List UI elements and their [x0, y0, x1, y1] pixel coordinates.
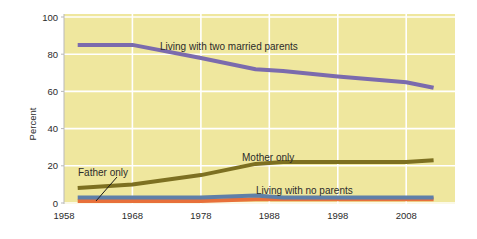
annotation-father-only: Father only — [78, 167, 128, 178]
x-tick-label-1968: 1968 — [122, 210, 143, 221]
x-tick-label-1978: 1978 — [190, 210, 211, 221]
y-tick-label-20: 20 — [47, 160, 58, 171]
annotation-mother-only: Mother only — [242, 152, 294, 163]
x-tick-label-1998: 1998 — [327, 210, 348, 221]
y-axis-title: Percent — [27, 107, 38, 140]
annotation-no-parents: Living with no parents — [256, 185, 353, 196]
annotation-two-married-parents: Living with two married parents — [160, 41, 298, 52]
x-tick-label-1988: 1988 — [259, 210, 280, 221]
y-tick-label-60: 60 — [47, 86, 58, 97]
x-tick-label-2008: 2008 — [396, 210, 417, 221]
chart-container: 100 80 60 40 20 0 Percent 1958 1968 1978… — [0, 0, 477, 239]
series-line-father-only — [78, 199, 434, 201]
y-tick-label-0: 0 — [53, 198, 58, 209]
y-tick-label-80: 80 — [47, 49, 58, 60]
y-tick-label-100: 100 — [42, 12, 58, 23]
y-tick-label-40: 40 — [47, 123, 58, 134]
x-tick-label-1958: 1958 — [53, 210, 74, 221]
line-chart: 100 80 60 40 20 0 Percent 1958 1968 1978… — [0, 0, 477, 239]
